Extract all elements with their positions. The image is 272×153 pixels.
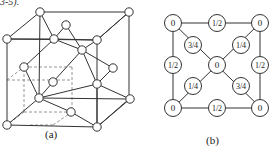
- atom-node: [109, 64, 117, 72]
- atom-node: [3, 121, 11, 129]
- atom-node: [36, 8, 44, 16]
- projection-atom: 1/4: [233, 37, 250, 54]
- bond-edge: [24, 67, 39, 98]
- bond-edge: [97, 84, 130, 99]
- atom-node: [125, 8, 133, 16]
- height-label: 1/2: [212, 19, 222, 28]
- projection-atom: 1/2: [252, 57, 269, 74]
- height-label: 1/2: [168, 61, 178, 70]
- height-label: 1/2: [212, 104, 222, 113]
- atom-node: [67, 108, 75, 116]
- bond-edge: [7, 12, 40, 39]
- height-label: 0: [171, 18, 176, 28]
- bond-edge: [97, 12, 129, 40]
- projection-atom: 1/2: [209, 15, 226, 32]
- projection-atom: 0: [252, 15, 269, 32]
- panel-b-label: (b): [206, 134, 219, 146]
- projection-atom: 0: [165, 100, 182, 117]
- projection-atom: 0: [252, 100, 269, 117]
- height-label: 0: [258, 18, 263, 28]
- projection-atom: 0: [165, 15, 182, 32]
- atom-node: [49, 78, 57, 86]
- bond-edge: [39, 84, 97, 98]
- atom-node: [3, 35, 11, 43]
- bond-edge: [39, 98, 71, 112]
- height-label: 1/2: [255, 61, 265, 70]
- projection-atom: 0: [209, 57, 226, 74]
- atom-node: [93, 123, 101, 131]
- bond-edge: [82, 50, 97, 84]
- atom-node: [20, 63, 28, 71]
- height-label: 0: [258, 103, 263, 113]
- height-label: 0: [215, 60, 220, 70]
- panel-b-projection: 01/203/41/41/201/21/43/401/20: [165, 15, 269, 117]
- diamond-structure-diagram: 01/203/41/41/201/21/43/401/20: [0, 0, 272, 153]
- projection-atom: 3/4: [185, 37, 202, 54]
- height-label: 3/4: [236, 82, 246, 91]
- panel-a-cubic-cell: [3, 8, 134, 131]
- bond-edge: [7, 98, 39, 125]
- projection-atom: 1/4: [185, 78, 202, 95]
- panel-a-label: (a): [45, 128, 57, 140]
- projection-atom: 1/2: [165, 57, 182, 74]
- atom-node: [50, 35, 58, 43]
- height-label: 0: [171, 103, 176, 113]
- bond-edge: [53, 50, 82, 82]
- height-label: 1/4: [236, 41, 246, 50]
- bond-edge: [39, 12, 40, 98]
- atom-node: [126, 95, 134, 103]
- height-label: 3/4: [188, 41, 198, 50]
- atom-node: [62, 21, 70, 29]
- atom-node: [35, 94, 43, 102]
- height-label: 1/4: [188, 82, 198, 91]
- bond-edge: [97, 99, 130, 127]
- atom-node: [78, 46, 86, 54]
- projection-atom: 3/4: [233, 78, 250, 95]
- atom-node: [93, 36, 101, 44]
- bond-edge: [39, 98, 129, 99]
- atom-node: [93, 80, 101, 88]
- projection-atom: 1/2: [209, 100, 226, 117]
